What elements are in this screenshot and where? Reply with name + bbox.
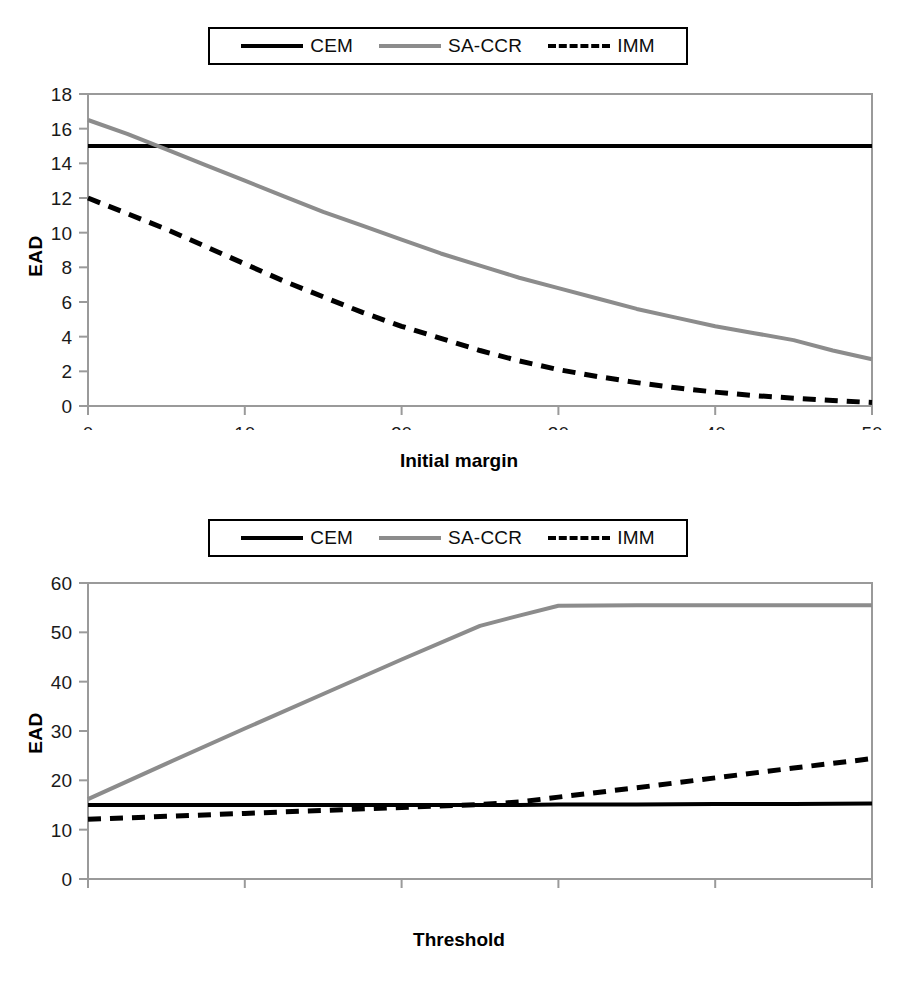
svg-text:50: 50	[861, 896, 882, 899]
svg-text:18: 18	[51, 84, 72, 105]
svg-text:10: 10	[51, 223, 72, 244]
legend-swatch-imm-icon	[548, 44, 610, 48]
legend-swatch-cem-icon	[241, 536, 303, 540]
legend-initial-margin: CEM SA-CCR IMM	[208, 27, 688, 65]
svg-text:50: 50	[861, 423, 882, 430]
legend-entry-saccr: SA-CCR	[379, 527, 522, 549]
svg-text:30: 30	[548, 423, 569, 430]
series-line-imm	[88, 759, 872, 820]
svg-text:0: 0	[83, 423, 94, 430]
series-line-imm	[88, 198, 872, 403]
legend-label-cem: CEM	[310, 527, 353, 549]
legend-swatch-saccr-icon	[379, 536, 441, 540]
legend-label-imm: IMM	[617, 527, 655, 549]
legend-entry-imm: IMM	[548, 527, 655, 549]
svg-text:0: 0	[83, 896, 94, 899]
svg-text:8: 8	[61, 257, 72, 278]
legend-label-imm: IMM	[617, 35, 655, 57]
svg-text:0: 0	[61, 396, 72, 417]
legend-swatch-imm-icon	[548, 536, 610, 540]
svg-text:16: 16	[51, 119, 72, 140]
svg-text:30: 30	[51, 721, 72, 742]
legend-label-saccr: SA-CCR	[448, 527, 522, 549]
legend-label-saccr: SA-CCR	[448, 35, 522, 57]
svg-text:6: 6	[61, 292, 72, 313]
series-line-sa-ccr	[88, 605, 872, 799]
legend-label-cem: CEM	[310, 35, 353, 57]
figure-initial-margin: CEM SA-CCR IMM 0246810121416180102030405…	[0, 0, 918, 497]
svg-text:20: 20	[391, 896, 412, 899]
svg-text:40: 40	[705, 423, 726, 430]
svg-text:10: 10	[234, 423, 255, 430]
svg-text:14: 14	[51, 153, 73, 174]
x-axis-title-bottom: Threshold	[0, 929, 918, 951]
svg-text:0: 0	[61, 869, 72, 890]
svg-text:10: 10	[51, 820, 72, 841]
svg-text:4: 4	[61, 327, 72, 348]
legend-entry-imm: IMM	[548, 35, 655, 57]
svg-text:60: 60	[51, 573, 72, 594]
series-line-cem	[88, 804, 872, 805]
svg-text:2: 2	[61, 361, 72, 382]
legend-threshold: CEM SA-CCR IMM	[208, 519, 688, 557]
series-line-sa-ccr	[88, 120, 872, 359]
plot-area-threshold: 010203040506001020304050	[0, 569, 918, 899]
legend-entry-cem: CEM	[241, 527, 353, 549]
svg-text:10: 10	[234, 896, 255, 899]
chart-svg-initial-margin: 02468101214161801020304050	[0, 80, 918, 430]
svg-text:50: 50	[51, 622, 72, 643]
legend-swatch-saccr-icon	[379, 44, 441, 48]
y-axis-title-bottom: EAD	[25, 693, 47, 773]
svg-text:20: 20	[51, 770, 72, 791]
svg-text:40: 40	[705, 896, 726, 899]
svg-text:20: 20	[391, 423, 412, 430]
legend-entry-saccr: SA-CCR	[379, 35, 522, 57]
x-axis-title-top: Initial margin	[0, 450, 918, 472]
y-axis-title-top: EAD	[25, 216, 47, 296]
chart-page: CEM SA-CCR IMM 0246810121416180102030405…	[0, 0, 918, 993]
plot-area-initial-margin: 02468101214161801020304050	[0, 80, 918, 430]
svg-text:40: 40	[51, 672, 72, 693]
legend-swatch-cem-icon	[241, 44, 303, 48]
chart-svg-threshold: 010203040506001020304050	[0, 569, 918, 899]
svg-text:30: 30	[548, 896, 569, 899]
figure-threshold: CEM SA-CCR IMM 010203040506001020304050 …	[0, 497, 918, 993]
svg-text:12: 12	[51, 188, 72, 209]
legend-entry-cem: CEM	[241, 35, 353, 57]
